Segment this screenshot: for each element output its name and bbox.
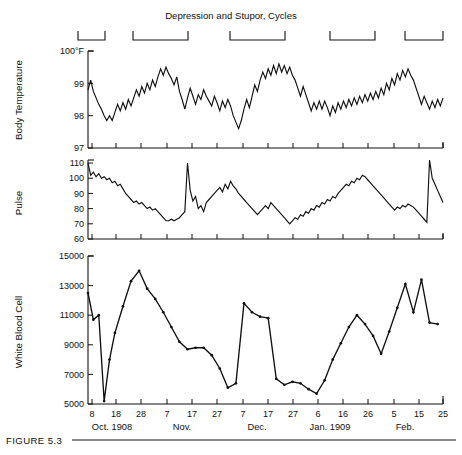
trace-white-blood-cell <box>88 271 438 401</box>
data-point <box>202 346 205 349</box>
x-day-label: 28 <box>136 409 146 419</box>
y-tick-label: 11000 <box>60 310 84 320</box>
panel-white-blood-cell: White Blood Cell 15000130001100090007000… <box>13 251 443 409</box>
x-day-label: 26 <box>363 409 373 419</box>
data-point <box>178 340 181 343</box>
episode-bracket-2 <box>133 31 188 40</box>
data-point <box>154 298 157 301</box>
data-point <box>103 400 106 403</box>
episode-brackets <box>78 31 443 40</box>
trace-body-temperature <box>88 64 443 129</box>
data-point <box>436 323 439 326</box>
data-point <box>243 302 246 305</box>
data-point <box>170 326 173 329</box>
y-tick-label: 90 <box>74 189 84 199</box>
y-axis-label-white-blood-cell: White Blood Cell <box>13 296 24 368</box>
x-day-label: 5 <box>391 409 396 419</box>
data-point <box>339 342 342 345</box>
data-point <box>259 315 262 318</box>
panel-pulse: Pulse 11010090807060 <box>13 158 443 244</box>
data-point <box>87 292 90 295</box>
y-tick-label: 13000 <box>59 281 84 291</box>
x-day-label: 27 <box>288 409 298 419</box>
x-day-label: 17 <box>263 409 273 419</box>
x-day-label: 7 <box>240 409 245 419</box>
data-point <box>364 323 367 326</box>
data-point <box>122 305 125 308</box>
x-month-label: Jan. 1909 <box>310 422 351 432</box>
data-point <box>283 383 286 386</box>
data-point <box>235 382 238 385</box>
x-axis-month-labels: Oct. 1908Nov.Dec.Jan. 1909Feb. <box>92 422 414 432</box>
x-axis-day-labels: 8182871727717276162651525 <box>89 409 448 419</box>
data-point <box>218 367 221 370</box>
data-point <box>267 317 270 320</box>
data-point <box>291 380 294 383</box>
data-point <box>348 326 351 329</box>
y-tick-label: 60 <box>74 234 84 244</box>
data-point <box>388 330 391 333</box>
y-axis-label-body-temperature: Body Temperature <box>13 60 24 140</box>
x-day-label: 7 <box>164 409 169 419</box>
data-point <box>372 335 375 338</box>
y-tick-label: 5000 <box>64 399 84 409</box>
y-tick-label: 70 <box>74 219 84 229</box>
medical-chart-figure: Depression and Stupor, Cycles Body Tempe… <box>0 0 462 455</box>
data-point <box>227 386 230 389</box>
data-point <box>404 283 407 286</box>
data-point <box>138 269 141 272</box>
y-tick-label: 99 <box>74 79 84 89</box>
data-point <box>428 321 431 324</box>
trace-pulse <box>88 160 443 224</box>
data-point <box>275 377 278 380</box>
episode-bracket-3 <box>230 31 285 40</box>
x-day-label: 16 <box>338 409 348 419</box>
x-day-label: 18 <box>111 409 121 419</box>
figure-title: Depression and Stupor, Cycles <box>165 10 297 21</box>
data-point <box>97 314 100 317</box>
figure-caption: FIGURE 5.3 <box>6 435 62 446</box>
data-point <box>299 382 302 385</box>
figure-5-3: Depression and Stupor, Cycles Body Tempe… <box>0 0 462 455</box>
data-point <box>380 352 383 355</box>
data-point <box>323 379 326 382</box>
episode-bracket-1 <box>78 31 105 40</box>
y-tick-label: 98 <box>74 111 84 121</box>
data-point <box>108 358 111 361</box>
y-tick-label: 97 <box>74 143 84 153</box>
x-ticks-white-blood-cell <box>92 399 443 404</box>
x-day-label: 15 <box>414 409 424 419</box>
data-point <box>194 346 197 349</box>
data-point <box>146 287 149 290</box>
data-point <box>130 280 133 283</box>
x-ticks-pulse <box>92 234 443 239</box>
data-point <box>331 358 334 361</box>
y-tick-label: 15000 <box>59 251 84 261</box>
y-axis-label-pulse: Pulse <box>13 190 24 215</box>
data-point <box>420 278 423 281</box>
data-point <box>315 392 318 395</box>
y-tick-label: 9000 <box>64 340 84 350</box>
x-month-label: Nov. <box>173 422 191 432</box>
data-point <box>251 311 254 314</box>
y-tick-label: 100 <box>69 173 84 183</box>
episode-bracket-5 <box>405 31 443 40</box>
episode-bracket-4 <box>330 31 375 40</box>
y-tick-label: 100°F <box>60 46 85 56</box>
x-day-label: 25 <box>438 409 448 419</box>
x-day-label: 27 <box>212 409 222 419</box>
data-point <box>356 314 359 317</box>
x-month-label: Feb. <box>396 422 415 432</box>
data-point <box>210 354 213 357</box>
data-point <box>307 388 310 391</box>
x-day-label: 17 <box>187 409 197 419</box>
panel-body-temperature: Body Temperature 100°F999897 <box>13 46 443 153</box>
data-point <box>412 311 415 314</box>
data-point <box>186 348 189 351</box>
data-point <box>162 311 165 314</box>
y-tick-label: 7000 <box>64 370 84 380</box>
x-ticks-body-temperature <box>92 143 443 148</box>
x-month-label: Oct. 1908 <box>92 422 132 432</box>
x-day-label: 6 <box>315 409 320 419</box>
y-tick-label: 80 <box>74 204 84 214</box>
